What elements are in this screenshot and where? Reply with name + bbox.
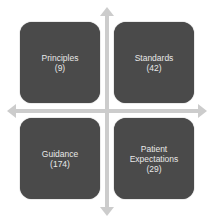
quadrant-guidance: Guidance (174) bbox=[20, 118, 100, 199]
arrow-down-icon bbox=[100, 207, 114, 216]
quadrant-label-line2: Expectations bbox=[130, 154, 179, 164]
quadrant-label: Guidance bbox=[42, 149, 78, 159]
quadrant-standards: Standards (42) bbox=[114, 22, 194, 103]
quadrant-count: (42) bbox=[146, 63, 161, 73]
arrow-up-icon bbox=[100, 7, 114, 16]
arrow-right-icon bbox=[198, 104, 207, 118]
quadrant-count: (29) bbox=[146, 164, 161, 174]
quadrant-label: Principles bbox=[42, 53, 79, 63]
quadrant-principles: Principles (9) bbox=[20, 22, 100, 103]
quadrant-count: (174) bbox=[50, 159, 70, 169]
quadrant-count: (9) bbox=[55, 63, 65, 73]
arrow-left-icon bbox=[7, 104, 16, 118]
quadrant-patient-expectations: Patient Expectations (29) bbox=[114, 118, 194, 199]
horizontal-axis bbox=[14, 109, 200, 113]
quadrant-label: Standards bbox=[135, 53, 174, 63]
quadrant-label-line1: Patient bbox=[141, 144, 167, 154]
